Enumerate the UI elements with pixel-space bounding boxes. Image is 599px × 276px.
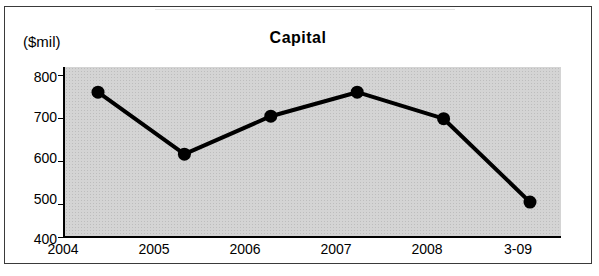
chart-title: Capital (5, 29, 591, 47)
x-tick-label-2006: 2006 (210, 241, 280, 257)
data-point-2008 (437, 112, 450, 125)
x-tick-label-2008: 2008 (392, 241, 462, 257)
plot-area (63, 67, 561, 238)
x-tick-label-3-09: 3-09 (483, 241, 553, 257)
x-tick-label-2004: 2004 (28, 241, 98, 257)
scan-artifact-line (155, 9, 455, 10)
data-point-2007 (351, 86, 364, 99)
chart-frame: ($mil) Capital 800 700 600 500 400 2004 … (4, 6, 592, 264)
y-tick-label-700: 700 (5, 109, 57, 125)
line-series (65, 67, 563, 238)
data-point-2004 (92, 86, 105, 99)
data-point-2005 (178, 148, 191, 161)
data-point-3-09 (524, 196, 537, 209)
x-tick-label-2007: 2007 (301, 241, 371, 257)
y-tick-label-500: 500 (5, 191, 57, 207)
y-tick-label-600: 600 (5, 150, 57, 166)
data-point-2006 (264, 110, 277, 123)
x-tick-label-2005: 2005 (119, 241, 189, 257)
y-tick-label-800: 800 (5, 69, 57, 85)
